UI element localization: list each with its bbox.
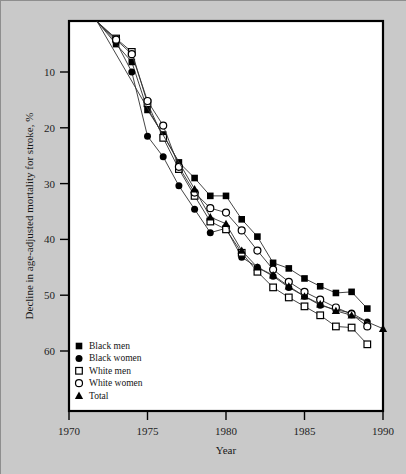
marker-filled-square — [238, 216, 245, 223]
marker-open-circle — [238, 227, 245, 234]
stroke-mortality-line-chart: 19701975198019851990102030405060 Black m… — [1, 1, 406, 474]
marker-filled-circle — [160, 153, 167, 160]
marker-filled-circle — [175, 182, 182, 189]
legend-item-label: Total — [89, 391, 109, 401]
marker-open-circle — [76, 380, 83, 387]
marker-filled-square — [348, 289, 355, 296]
marker-filled-circle — [144, 133, 151, 140]
y-tick-label: 30 — [44, 178, 56, 190]
legend-item-label: White women — [89, 378, 143, 388]
marker-open-circle — [113, 36, 120, 43]
y-tick-label: 50 — [44, 289, 56, 301]
marker-filled-circle — [128, 69, 135, 76]
marker-filled-square — [333, 290, 340, 297]
marker-filled-square — [317, 283, 324, 290]
y-tick-label: 20 — [44, 122, 56, 134]
marker-open-square — [364, 341, 371, 348]
marker-open-square — [270, 284, 277, 291]
y-tick-label: 40 — [44, 233, 56, 245]
marker-filled-square — [286, 265, 293, 272]
legend-item-label: White men — [89, 366, 131, 376]
marker-filled-square — [223, 193, 230, 200]
marker-open-circle — [207, 205, 214, 212]
x-tick-label: 1980 — [215, 425, 238, 437]
y-axis-title: Decline in age-adjusted mortality for st… — [23, 113, 35, 320]
y-tick-label: 60 — [44, 345, 56, 357]
marker-filled-square — [254, 233, 261, 240]
marker-open-square — [348, 324, 355, 331]
marker-filled-square — [301, 275, 308, 282]
legend-item-label: Black women — [89, 353, 142, 363]
marker-open-square — [317, 312, 324, 319]
y-tick-label: 10 — [44, 66, 56, 78]
marker-open-square — [301, 303, 308, 310]
x-tick-label: 1975 — [137, 425, 160, 437]
marker-open-square — [286, 294, 293, 301]
figure-container: 19701975198019851990102030405060 Black m… — [0, 0, 406, 474]
marker-filled-square — [270, 260, 277, 267]
x-tick-label: 1990 — [372, 425, 395, 437]
marker-filled-circle — [191, 206, 198, 213]
marker-filled-square — [207, 193, 214, 200]
marker-filled-square — [76, 343, 83, 350]
marker-open-square — [76, 368, 83, 375]
legend-item-label: Black men — [89, 341, 130, 351]
x-tick-label: 1970 — [58, 425, 81, 437]
x-tick-label: 1985 — [294, 425, 317, 437]
marker-open-square — [333, 323, 340, 330]
marker-open-circle — [160, 122, 167, 129]
marker-open-circle — [254, 247, 261, 254]
marker-filled-square — [191, 175, 198, 182]
marker-open-circle — [223, 209, 230, 216]
marker-open-circle — [364, 323, 371, 330]
marker-open-circle — [128, 51, 135, 58]
marker-filled-circle — [76, 355, 83, 362]
marker-filled-circle — [207, 229, 214, 236]
marker-filled-square — [364, 305, 371, 312]
x-axis-title: Year — [216, 444, 237, 456]
